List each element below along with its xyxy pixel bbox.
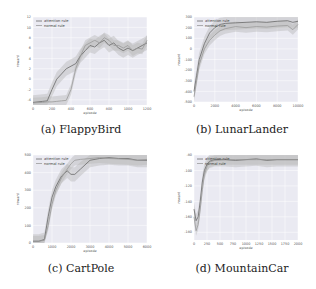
- caption-mountaincar: (d) MountainCar: [177, 262, 307, 275]
- chart-mountaincar: 025050075010001250150017502000-180-160-1…: [0, 0, 316, 260]
- y-axis-label: reward: [177, 192, 181, 204]
- legend-entry: attention rule: [205, 157, 230, 161]
- x-tick-label: 1250: [255, 242, 264, 246]
- y-tick-label: -80: [186, 153, 192, 157]
- y-tick-label: -180: [184, 230, 192, 234]
- panel-mountaincar: 025050075010001250150017502000-180-160-1…: [0, 0, 316, 260]
- caption-cartpole: (c) CartPole: [16, 262, 146, 275]
- x-tick-label: 1500: [268, 242, 277, 246]
- y-tick-label: -140: [184, 200, 192, 204]
- x-tick-label: 500: [217, 242, 223, 246]
- x-tick-label: 2000: [294, 242, 303, 246]
- legend-entry: normal rule: [205, 162, 226, 166]
- y-tick-label: -100: [184, 169, 192, 173]
- x-tick-label: 750: [230, 242, 236, 246]
- y-tick-label: -120: [184, 184, 192, 188]
- y-tick-label: -160: [184, 215, 192, 219]
- x-tick-label: 1750: [281, 242, 290, 246]
- x-tick-label: 0: [193, 242, 195, 246]
- x-axis-label: episode: [239, 246, 252, 250]
- x-tick-label: 250: [204, 242, 210, 246]
